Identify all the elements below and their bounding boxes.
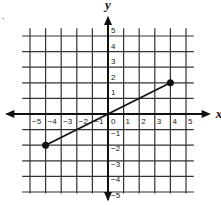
graph-svg: xy−5−4−3−2−1012345−5−4−3−2−112345 [0, 0, 221, 205]
y-tick-label: 3 [111, 57, 116, 66]
y-axis-label: y [103, 0, 111, 12]
y-tick-label: −3 [111, 160, 121, 169]
x-tick-label: 5 [188, 117, 193, 126]
problem-marker: . [2, 12, 4, 21]
y-tick-label: 1 [111, 88, 116, 97]
x-tick-label: 3 [157, 117, 162, 126]
y-tick-label: 5 [111, 26, 116, 35]
endpoint-dot [42, 142, 49, 149]
x-tick-label: 4 [172, 117, 177, 126]
y-tick-label: −2 [111, 144, 121, 153]
y-tick-label: 4 [111, 42, 116, 51]
x-tick-label: −3 [63, 117, 73, 126]
y-axis-up-arrow-icon [104, 16, 112, 25]
x-tick-label: 0 [111, 117, 116, 126]
x-tick-label: 1 [126, 117, 131, 126]
x-tick-label: 2 [141, 117, 146, 126]
y-tick-label: 2 [111, 73, 116, 82]
y-tick-label: −4 [111, 175, 121, 184]
x-axis-label: x [215, 106, 221, 121]
x-tick-label: −5 [32, 117, 42, 126]
endpoint-dot [167, 79, 174, 86]
x-tick-label: −4 [48, 117, 58, 126]
y-tick-label: −1 [111, 129, 121, 138]
x-axis-right-arrow-icon [202, 110, 211, 118]
x-axis-left-arrow-icon [5, 110, 14, 118]
y-tick-label: −5 [111, 191, 121, 200]
